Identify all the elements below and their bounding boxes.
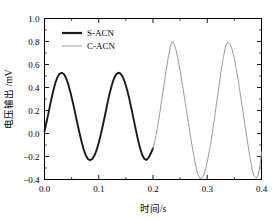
chart-canvas: 1.00.80.60.40.20.0−0.2−0.4 0.00.10.20.30… <box>0 0 275 219</box>
x-tick-label: 0.4 <box>256 184 268 194</box>
y-tick-label: 0.0 <box>28 129 40 139</box>
x-axis-title: 时间/s <box>140 203 167 214</box>
x-axis-tick-labels: 0.00.10.20.30.4 <box>39 184 268 194</box>
y-tick-label: 0.6 <box>28 60 40 70</box>
y-axis-title: 电压输出 /mV <box>3 69 14 128</box>
chart-legend: S-ACNC-ACN <box>62 28 116 51</box>
y-tick-label: −0.2 <box>23 152 39 162</box>
y-tick-label: 0.8 <box>28 37 40 47</box>
y-tick-label: −0.4 <box>23 175 40 185</box>
y-tick-label: 0.2 <box>28 106 39 116</box>
y-tick-label: 0.4 <box>28 83 40 93</box>
legend-label-s-acn: S-ACN <box>87 28 115 38</box>
series-line-s-acn <box>45 73 154 160</box>
data-series-layer <box>45 42 262 179</box>
chart-figure: 1.00.80.60.40.20.0−0.2−0.4 0.00.10.20.30… <box>0 0 275 219</box>
y-tick-label: 1.0 <box>28 14 40 24</box>
x-tick-label: 0.3 <box>202 184 214 194</box>
x-tick-label: 0.2 <box>147 184 158 194</box>
x-tick-label: 0.1 <box>93 184 104 194</box>
x-tick-label: 0.0 <box>39 184 51 194</box>
legend-label-c-acn: C-ACN <box>87 41 116 51</box>
series-line-c-acn <box>153 42 262 179</box>
y-axis-tick-labels: 1.00.80.60.40.20.0−0.2−0.4 <box>23 14 40 185</box>
